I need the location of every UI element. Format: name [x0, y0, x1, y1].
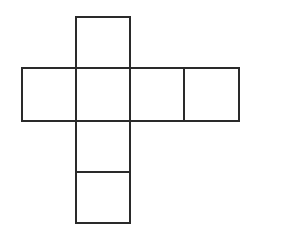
net-square-bottom-2	[76, 172, 130, 223]
net-square-left	[22, 68, 76, 121]
cube-net-diagram	[0, 0, 294, 226]
net-square-right-1	[130, 68, 184, 121]
net-square-bottom-1	[76, 121, 130, 172]
net-square-right-2	[184, 68, 239, 121]
net-square-top	[76, 17, 130, 68]
net-square-center	[76, 68, 130, 121]
